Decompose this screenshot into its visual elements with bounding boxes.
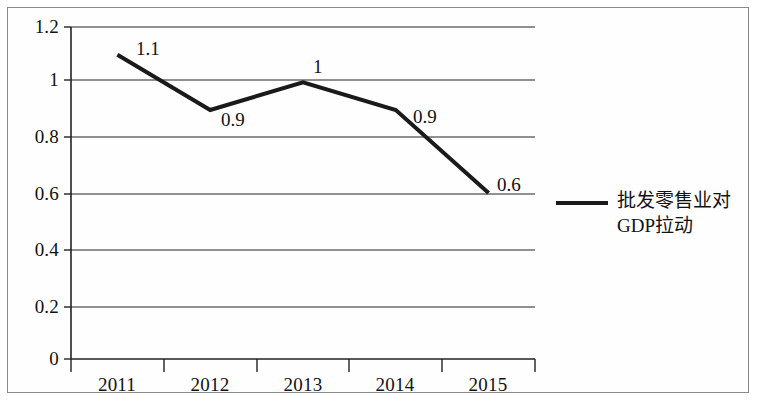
y-tick-label-0.2: 0.2 xyxy=(7,296,59,318)
y-axis-ticks xyxy=(64,27,71,359)
data-label-2013: 1 xyxy=(313,56,323,78)
x-tick-label-2011: 2011 xyxy=(71,374,163,396)
x-tick-label-2013: 2013 xyxy=(257,374,349,396)
chart-frame: 1.2 1 0.8 0.6 0.4 0.2 0 2011 2012 2013 2… xyxy=(7,7,749,393)
legend-entry-label: 批发零售业对 GDP拉动 xyxy=(617,188,731,238)
data-label-2012: 0.9 xyxy=(221,109,245,131)
x-tick-label-2012: 2012 xyxy=(164,374,256,396)
y-tick-label-0.8: 0.8 xyxy=(7,126,59,148)
legend-entry-label-line1: 批发零售业对 xyxy=(617,188,731,213)
y-tick-label-0: 0 xyxy=(7,348,59,370)
x-tick-label-2015: 2015 xyxy=(442,374,534,396)
x-axis-ticks xyxy=(71,359,535,372)
chart-legend: 批发零售业对 GDP拉动 xyxy=(556,188,746,238)
data-label-2011: 1.1 xyxy=(136,38,160,60)
y-tick-label-1: 1 xyxy=(7,69,59,91)
legend-line-swatch xyxy=(556,201,608,205)
legend-entry-label-line2: GDP拉动 xyxy=(617,213,731,238)
y-tick-label-0.6: 0.6 xyxy=(7,183,59,205)
y-tick-label-0.4: 0.4 xyxy=(7,239,59,261)
x-tick-label-2014: 2014 xyxy=(349,374,441,396)
y-tick-label-1.2: 1.2 xyxy=(7,16,59,38)
data-label-2015: 0.6 xyxy=(497,174,521,196)
data-label-2014: 0.9 xyxy=(413,106,437,128)
